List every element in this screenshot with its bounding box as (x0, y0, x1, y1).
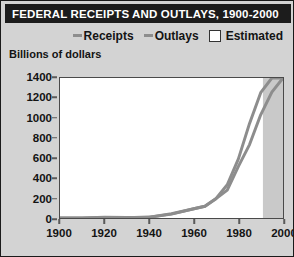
x-axis-tick-label: 1900 (46, 227, 72, 239)
x-axis-tick-mark (58, 219, 60, 224)
x-axis-tick-label: 1940 (136, 227, 162, 239)
x-axis-tick-label: 1920 (91, 227, 117, 239)
chart-figure: FEDERAL RECEIPTS AND OUTLAYS, 1900-2000 … (0, 0, 294, 257)
x-axis-tick-mark (193, 219, 195, 224)
x-axis-tick-label: 1980 (226, 227, 252, 239)
x-axis-tick-mark (148, 219, 150, 224)
x-axis-tick-label: 1960 (181, 227, 207, 239)
x-axis: 190019201940196019802000 (1, 1, 294, 257)
x-axis-tick-label: 2000 (271, 227, 294, 239)
x-axis-tick-mark (283, 219, 285, 224)
x-axis-tick-mark (238, 219, 240, 224)
x-axis-tick-mark (103, 219, 105, 224)
